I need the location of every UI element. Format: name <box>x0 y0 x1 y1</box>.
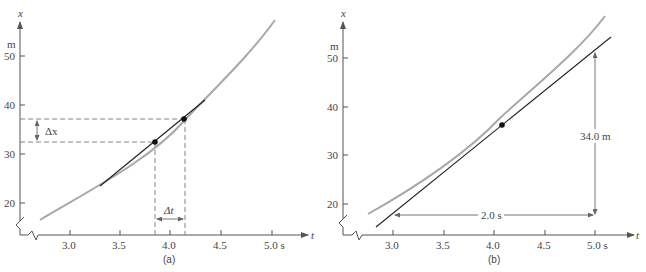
x-tick-label: 4.0 <box>486 239 500 251</box>
x-tick-label: 5.0 s <box>587 239 608 251</box>
panel-caption: (b) <box>488 254 500 265</box>
y-axis-label: x <box>17 7 23 19</box>
delta-x-label: Δx <box>45 125 58 137</box>
x-axis-label: t <box>311 229 315 241</box>
data-point <box>152 139 158 145</box>
figure: x m 50 40 30 20 3.0 3.5 4.0 4.5 5.0 s t … <box>0 0 646 272</box>
rise-label: 34.0 m <box>580 130 611 142</box>
x-tick-label: 4.5 <box>537 239 551 251</box>
y-tick-label: 30 <box>4 148 16 160</box>
y-axis <box>339 22 347 235</box>
x-tick-label: 3.5 <box>436 239 450 251</box>
x-tick-label: 5.0 s <box>264 239 285 251</box>
x-tick-label: 4.0 <box>162 239 176 251</box>
y-ticks <box>343 58 348 204</box>
x-ticks <box>393 230 595 235</box>
y-unit-label: m <box>330 40 339 52</box>
position-curve <box>368 16 605 214</box>
delta-t-label: Δt <box>163 204 174 216</box>
y-tick-label: 20 <box>4 197 16 209</box>
y-axis-label: x <box>340 7 346 19</box>
panel-b: x m 50 40 30 20 3.0 3.5 4.0 4.5 5.0 s t … <box>327 7 640 265</box>
x-ticks <box>70 230 272 235</box>
y-tick-label: 50 <box>327 52 339 64</box>
x-tick-label: 3.5 <box>112 239 126 251</box>
y-unit-label: m <box>7 38 16 50</box>
y-tick-label: 20 <box>327 198 339 210</box>
y-ticks <box>20 56 25 203</box>
y-tick-label: 30 <box>327 149 339 161</box>
x-tick-label: 3.0 <box>385 239 399 251</box>
x-tick-label: 3.0 <box>62 239 76 251</box>
position-curve <box>40 20 275 220</box>
panel-a: x m 50 40 30 20 3.0 3.5 4.0 4.5 5.0 s t … <box>4 7 315 265</box>
x-tick-label: 4.5 <box>213 239 227 251</box>
run-label: 2.0 s <box>481 209 502 221</box>
x-axis-label: t <box>636 229 640 241</box>
panel-caption: (a) <box>163 254 175 265</box>
y-tick-label: 40 <box>327 101 339 113</box>
data-point <box>181 116 187 122</box>
y-tick-label: 40 <box>4 99 16 111</box>
tangent-point <box>499 122 505 128</box>
tangent-line <box>376 37 611 227</box>
y-tick-label: 50 <box>4 50 16 62</box>
